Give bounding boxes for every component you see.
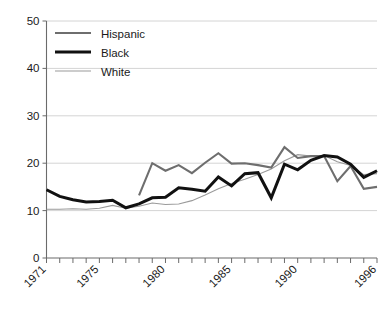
y-axis-tick-label: 10 xyxy=(27,205,40,217)
legend-label-black: Black xyxy=(101,47,129,59)
x-axis-tick-label: 1971 xyxy=(21,263,48,290)
x-axis-tick-label: 1975 xyxy=(74,263,101,290)
x-axis-tick-label: 1996 xyxy=(352,263,379,290)
line-chart: 01020304050 197119751980198519901996 His… xyxy=(0,0,386,311)
y-axis-tick-label: 20 xyxy=(27,157,40,169)
chart-container: 01020304050 197119751980198519901996 His… xyxy=(0,0,386,311)
legend: HispanicBlackWhite xyxy=(55,28,145,78)
x-axis-tick-label: 1985 xyxy=(206,263,233,290)
y-axis-tick-label: 30 xyxy=(27,110,40,122)
y-axis-tick-label: 0 xyxy=(33,252,39,264)
y-axis-tick-label: 40 xyxy=(27,62,40,74)
legend-label-white: White xyxy=(101,66,130,78)
x-axis-tick-label: 1990 xyxy=(273,263,300,290)
data-series-group xyxy=(47,147,378,209)
y-axis-tick-label: 50 xyxy=(27,15,40,27)
x-axis-tick-label: 1980 xyxy=(140,263,167,290)
x-axis-ticks xyxy=(47,258,378,263)
legend-label-hispanic: Hispanic xyxy=(101,28,145,40)
y-axis-tick-labels: 01020304050 xyxy=(27,15,47,264)
x-axis-tick-labels: 197119751980198519901996 xyxy=(21,263,378,290)
